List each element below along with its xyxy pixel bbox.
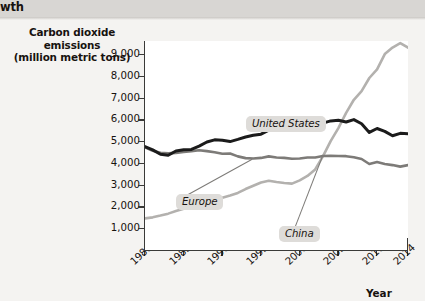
series-label-united-states: United States [246,116,326,132]
y-axis-tick-label: 9,000 [94,49,140,59]
y-axis-tick-label: 5,000 [94,136,140,146]
line-chart: Carbon dioxide emissions (million metric… [0,20,425,301]
plot-right-tick [407,238,408,251]
series-lines [145,41,408,250]
y-axis-tick-label: 2,000 [94,201,140,211]
y-axis-tick-label: 1,000 [94,223,140,233]
y-axis-tick-labels: 9,0008,0007,0006,0005,0004,0003,0002,000… [88,20,140,260]
series-label-china: China [279,226,320,242]
y-axis-tick-label: 3,000 [94,180,140,190]
y-axis-tick-label: 6,000 [94,114,140,124]
cut-off-header-band: wth [0,0,425,17]
y-axis-tick-label: 4,000 [94,158,140,168]
x-axis-title: Year [366,287,392,299]
y-axis-tick-label: 8,000 [94,71,140,81]
y-axis-tick-label: 7,000 [94,93,140,103]
partial-heading-text: wth [0,0,24,15]
plot-area [144,41,408,251]
series-label-europe: Europe [176,194,223,210]
